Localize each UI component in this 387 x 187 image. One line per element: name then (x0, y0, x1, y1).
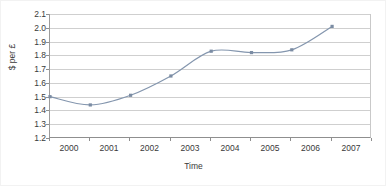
data-point-marker (290, 48, 293, 51)
x-tick-label: 2000 (49, 143, 89, 153)
data-point-marker (169, 74, 172, 77)
y-tick-label: 1.3 (2, 120, 46, 129)
data-point-marker (129, 94, 132, 97)
chart-screenshot: 2.1 2.0 1.9 1.8 1.7 1.6 1.5 1.4 1.3 1.2 … (0, 0, 387, 187)
x-tick-label: 2003 (170, 143, 210, 153)
x-tick-mark (331, 138, 332, 141)
series-markers (48, 25, 333, 107)
data-point-marker (89, 103, 92, 106)
x-tick-mark (290, 138, 291, 141)
x-tick-label: 2007 (331, 143, 371, 153)
x-tick-mark (250, 138, 251, 141)
y-tick-label: 1.5 (2, 93, 46, 102)
data-point-marker (48, 95, 51, 98)
x-tick-label: 2002 (129, 143, 170, 153)
x-tick-mark (210, 138, 211, 141)
y-axis-title: $ per £ (7, 27, 17, 87)
data-point-marker (250, 51, 253, 54)
series-path (50, 26, 332, 105)
x-tick-mark (129, 138, 130, 141)
y-tick-label: 1.2 (2, 134, 46, 143)
x-tick-mark (89, 138, 90, 141)
x-tick-label: 2005 (250, 143, 290, 153)
data-point-marker (210, 50, 213, 53)
x-axis-title: Time (0, 161, 387, 171)
x-tick-mark (371, 138, 372, 141)
x-tick-label: 2004 (210, 143, 250, 153)
x-tick-mark (170, 138, 171, 141)
y-tick-label: 2.1 (2, 10, 46, 19)
x-tick-label: 2001 (89, 143, 129, 153)
x-tick-label: 2006 (290, 143, 331, 153)
data-series-line (50, 14, 372, 138)
y-tick-label: 1.4 (2, 106, 46, 115)
data-point-marker (331, 25, 334, 28)
x-tick-mark (49, 138, 50, 141)
plot-area (49, 14, 371, 138)
